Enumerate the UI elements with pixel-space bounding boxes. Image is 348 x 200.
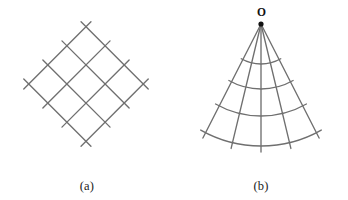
polar-ray-1 <box>231 24 261 148</box>
grid-line-family2-1 <box>43 41 110 108</box>
grid-line-family1-0 <box>81 22 148 89</box>
grid-line-family2-3 <box>81 79 148 146</box>
grid-line-family1-3 <box>24 79 91 146</box>
grid-line-family1-1 <box>62 41 129 108</box>
polar-radial-lines <box>203 24 319 152</box>
caption-b: (b) <box>174 180 348 193</box>
figure-root: (a) O (b) <box>0 0 348 200</box>
grid-line-family2-0 <box>24 22 91 89</box>
panel-a-diamond-grid: (a) <box>0 0 174 200</box>
diamond-grid-svg <box>0 0 174 200</box>
panel-b-polar-fan-mesh: O (b) <box>174 0 348 200</box>
polar-ray-4 <box>261 24 319 138</box>
diamond-grid-lines <box>24 22 148 146</box>
grid-line-family2-2 <box>62 60 129 127</box>
apex-label-o: O <box>257 7 266 19</box>
polar-fan-svg <box>174 0 348 200</box>
apex-point-marker <box>258 21 263 26</box>
polar-ray-0 <box>203 24 261 138</box>
grid-line-family1-2 <box>43 60 110 127</box>
caption-a: (a) <box>0 180 174 193</box>
polar-ray-3 <box>261 24 291 148</box>
